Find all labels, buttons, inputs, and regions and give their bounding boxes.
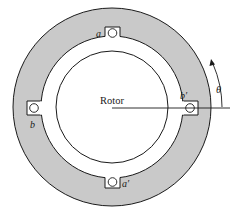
- conductor-a-prime-icon: [108, 178, 117, 187]
- rotor-label: Rotor: [100, 95, 124, 106]
- machine-cross-section-diagram: Rotor a a′ b b′ θ: [0, 0, 240, 214]
- slot-a-label: a: [96, 28, 101, 39]
- conductor-b-icon: [30, 104, 39, 113]
- conductor-a-icon: [108, 29, 117, 38]
- slot-b-prime-label: b′: [180, 90, 188, 101]
- slot-a-prime: [105, 174, 120, 188]
- slot-b: [27, 101, 44, 115]
- slot-a: [105, 27, 120, 40]
- arrow-head-icon: [210, 59, 216, 66]
- slot-b-label: b: [30, 119, 35, 130]
- angle-theta-label: θ: [216, 84, 221, 95]
- rotor-circle: [56, 51, 168, 163]
- slot-a-prime-label: a′: [122, 178, 130, 189]
